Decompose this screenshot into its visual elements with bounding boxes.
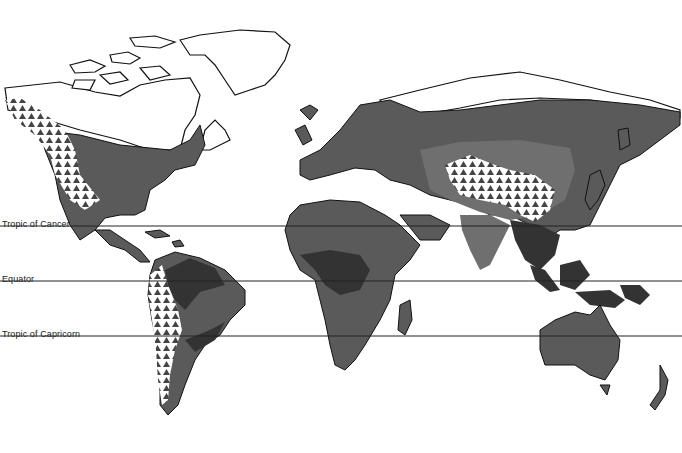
- south-america: [148, 252, 245, 415]
- tropic-of-cancer-label: Tropic of Cancer: [2, 219, 70, 229]
- equator-label: Equator: [2, 274, 34, 284]
- oceania: [540, 305, 668, 410]
- world-map: [0, 0, 682, 453]
- tropic-of-capricorn-label: Tropic of Capricorn: [2, 329, 80, 339]
- caribbean-islands: [145, 230, 184, 247]
